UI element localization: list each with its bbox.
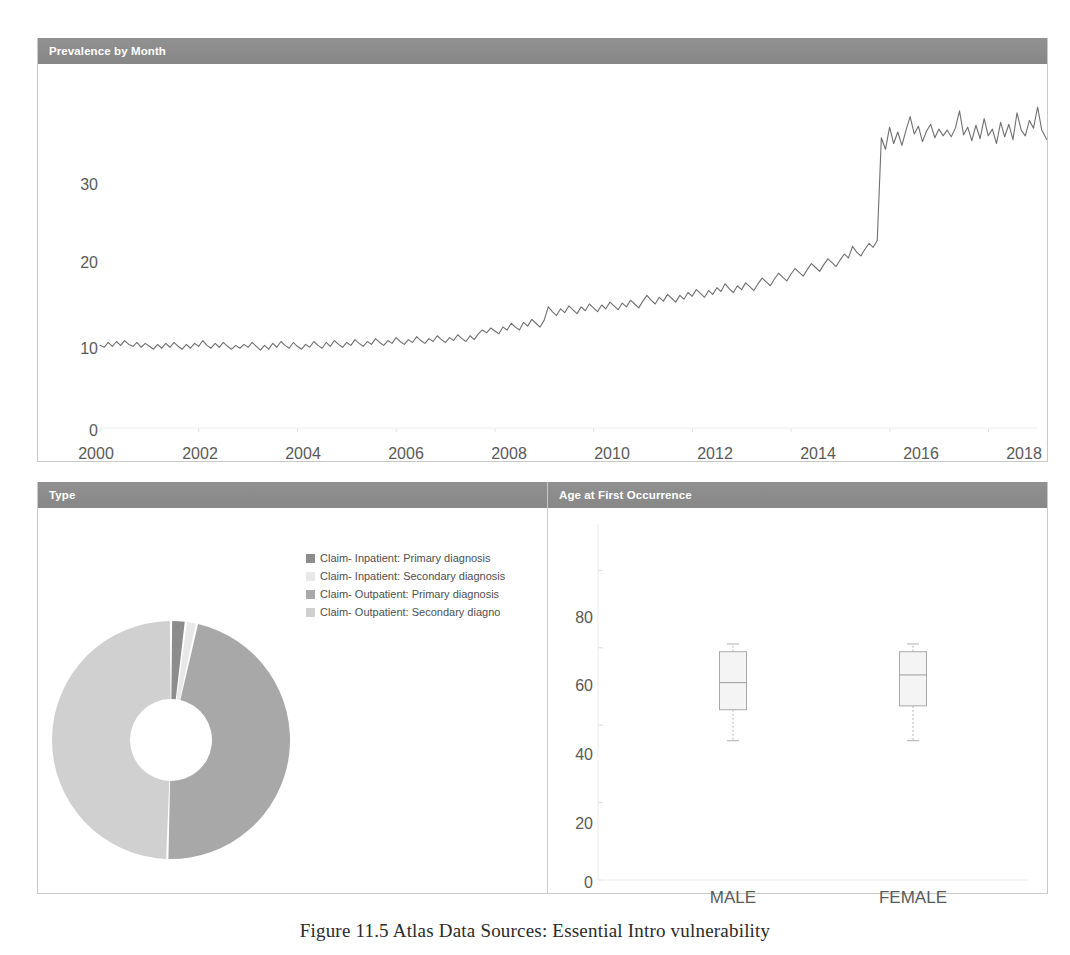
legend-label: Claim- Outpatient: Primary diagnosis	[320, 586, 499, 602]
y-axis-tick-20: 20	[60, 254, 98, 272]
legend-label: Claim- Inpatient: Primary diagnosis	[320, 550, 491, 566]
prevalence-chart-area: 30 20 10 0 2000 2002 2004 2006 2008 2010…	[38, 64, 1047, 462]
x-axis-tick-2008: 2008	[469, 445, 549, 463]
age-y-tick-0: 0	[553, 874, 593, 892]
legend-item-inpatient-secondary[interactable]: Claim- Inpatient: Secondary diagnosis	[306, 568, 544, 584]
y-axis-tick-10: 10	[60, 340, 98, 358]
panel-title-type: Type	[38, 482, 547, 508]
box-iqr	[720, 652, 747, 710]
legend-item-outpatient-primary[interactable]: Claim- Outpatient: Primary diagnosis	[306, 586, 544, 602]
legend-swatch-icon	[306, 572, 315, 581]
legend-label: Claim- Inpatient: Secondary diagnosis	[320, 568, 505, 584]
prevalence-series-line	[100, 107, 1047, 350]
x-axis-tick-2002: 2002	[160, 445, 240, 463]
legend-item-outpatient-secondary[interactable]: Claim- Outpatient: Secondary diagno	[306, 604, 544, 620]
x-axis-tick-2014: 2014	[778, 445, 858, 463]
x-axis-tick-2006: 2006	[366, 445, 446, 463]
legend-swatch-icon	[306, 590, 315, 599]
x-axis-tick-2018: 2018	[984, 445, 1064, 463]
age-y-tick-60: 60	[553, 677, 593, 695]
panel-title-prevalence: Prevalence by Month	[38, 38, 1047, 64]
panel-type: Type Claim- Inpatient: Primary diagnosis…	[37, 482, 548, 894]
category-label-male: MALE	[653, 888, 813, 908]
legend-item-inpatient-primary[interactable]: Claim- Inpatient: Primary diagnosis	[306, 550, 544, 566]
axis-ticks	[100, 428, 1038, 432]
x-axis-tick-2010: 2010	[572, 445, 652, 463]
age-y-tick-40: 40	[553, 746, 593, 764]
box-iqr	[900, 652, 927, 706]
x-axis-tick-2012: 2012	[675, 445, 755, 463]
x-axis-tick-2016: 2016	[881, 445, 961, 463]
type-legend: Claim- Inpatient: Primary diagnosis Clai…	[306, 550, 544, 622]
prevalence-line-plot	[38, 64, 1047, 460]
figure-caption: Figure 11.5 Atlas Data Sources: Essentia…	[0, 920, 1070, 955]
age-box-plot	[548, 508, 1047, 894]
panel-age-at-first-occurrence: Age at First Occurrence 80 60 40 20 0 MA…	[547, 482, 1048, 894]
x-axis-tick-2004: 2004	[263, 445, 343, 463]
legend-swatch-icon	[306, 608, 315, 617]
box-shapes	[720, 644, 927, 741]
y-axis-tick-0: 0	[60, 422, 98, 440]
category-label-female: FEMALE	[833, 888, 993, 908]
axis-ticks	[598, 524, 1028, 880]
donut-slice[interactable]	[52, 621, 171, 859]
dashboard: Prevalence by Month 30 20 10 0 2000 2002…	[0, 0, 1070, 900]
legend-label: Claim- Outpatient: Secondary diagno	[320, 604, 500, 620]
panel-title-age: Age at First Occurrence	[548, 482, 1047, 508]
age-chart-area: 80 60 40 20 0 MALE FEMALE	[548, 508, 1047, 894]
x-axis-tick-2000: 2000	[56, 445, 136, 463]
donut-slices[interactable]	[52, 621, 290, 859]
panel-prevalence-by-month: Prevalence by Month 30 20 10 0 2000 2002…	[37, 38, 1048, 462]
type-chart-area: Claim- Inpatient: Primary diagnosis Clai…	[38, 508, 547, 894]
legend-swatch-icon	[306, 554, 315, 563]
y-axis-tick-30: 30	[60, 176, 98, 194]
age-y-tick-20: 20	[553, 815, 593, 833]
age-y-tick-80: 80	[553, 609, 593, 627]
